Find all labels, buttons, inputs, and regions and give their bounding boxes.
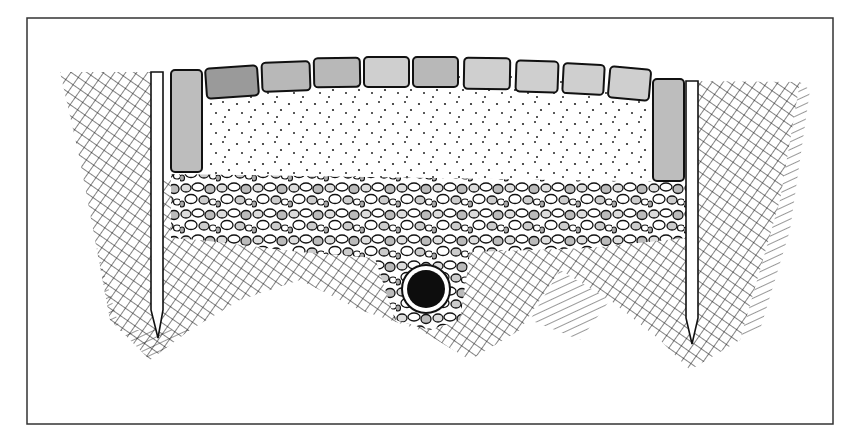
left-stake (151, 72, 163, 338)
path-cross-section-diagram (0, 0, 858, 438)
paving-brick (608, 66, 652, 100)
right-stake (686, 81, 698, 344)
paving-brick (262, 61, 311, 92)
paving-brick (314, 58, 360, 88)
drain-pipe (402, 265, 450, 313)
paving-brick (364, 57, 409, 87)
paving-brick (515, 60, 558, 92)
right-edging-brick (653, 79, 684, 181)
paving-brick (413, 57, 458, 87)
paving-brick (464, 58, 511, 90)
illustration-canvas (0, 0, 858, 438)
paving-brick (205, 65, 259, 99)
left-edging-brick (171, 70, 202, 172)
paving-brick (562, 63, 605, 95)
